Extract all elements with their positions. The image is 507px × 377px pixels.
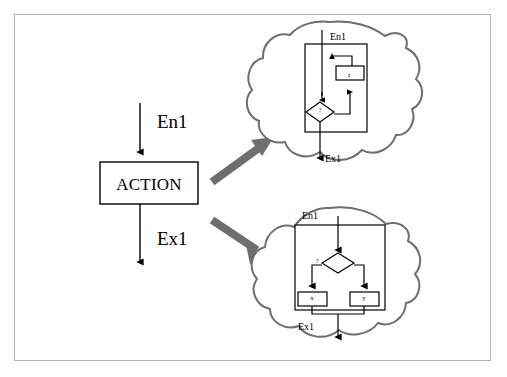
loop-inner-container [305, 44, 367, 132]
main-exit-label: Ex1 [157, 229, 188, 248]
loop-exit-label: Ex1 [325, 154, 341, 164]
branch-right-label: y [355, 295, 373, 301]
main-entry-label: En1 [157, 112, 188, 131]
loop-decision-label: ? [314, 107, 326, 113]
branch-exit-label: Ex1 [298, 322, 314, 332]
branch-entry-label: En1 [302, 211, 318, 221]
loop-entry-label: En1 [330, 32, 346, 42]
branch-decision-label: ? [311, 258, 323, 264]
branch-left-label: x [303, 295, 321, 301]
action-box-label: ACTION [100, 176, 198, 193]
diagram-canvas: En1 ACTION Ex1 En1 z ? Ex1 En1 ? x y Ex1 [0, 0, 507, 377]
arrow-to-loop-detail [212, 137, 274, 182]
loop-body-label: z [340, 72, 358, 78]
diagram-vector-layer [0, 0, 507, 377]
